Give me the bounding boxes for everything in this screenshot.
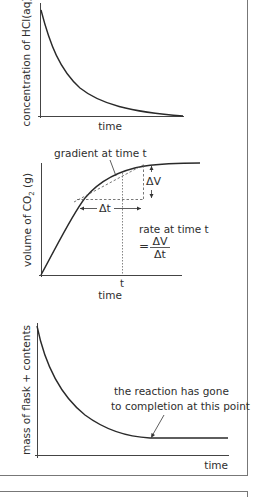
y-axis-label: mass of flask + contents [20,325,32,455]
rate-denominator: Δt [154,248,167,261]
y-axis-label: volume of CO2 (g) [21,173,36,267]
x-axis-label: time [98,289,122,301]
rate-numerator: ΔV [152,235,168,248]
rate-equals: = [139,239,149,253]
gradient-pointer [110,160,116,176]
figure-canvas: concentration of HCl(aq) time Δt ΔV [0,0,260,497]
tangent-line [74,164,145,202]
completion-annotation-line2: to completion at this point [111,400,250,412]
rate-label: rate at time t [139,223,209,235]
panel-flask-mass: mass of flask + contents time the reacti… [20,323,250,471]
completion-pointer-arrow [151,415,164,438]
panel-hcl-concentration: concentration of HCl(aq) time [20,0,184,132]
mass-curve [37,326,228,438]
delta-v-label: ΔV [146,175,162,188]
completion-annotation-line1: the reaction has gone [114,385,229,397]
delta-t-label: Δt [99,202,112,215]
decay-curve [41,10,183,116]
panel-co2-volume: Δt ΔV gradient at time t rate at time t … [21,147,209,301]
x-tick-t: t [120,278,124,289]
gradient-annotation: gradient at time t [54,147,147,159]
x-axis-label: time [204,459,228,471]
y-axis-label: concentration of HCl(aq) [20,0,32,126]
x-axis-label: time [98,120,122,132]
rising-curve [41,163,200,275]
